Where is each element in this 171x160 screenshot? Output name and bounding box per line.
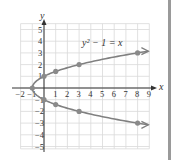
data-point: [135, 50, 140, 55]
x-tick-label: 3: [77, 89, 81, 99]
x-tick-label: 4: [88, 89, 93, 99]
data-point: [41, 74, 46, 79]
x-tick-label: 5: [100, 89, 104, 99]
x-tick-label: −2: [16, 89, 25, 99]
data-point: [135, 121, 140, 126]
x-tick-label: 6: [112, 89, 116, 99]
y-tick-label: −3: [35, 118, 44, 128]
x-tick-label: 8: [135, 89, 139, 99]
y-tick-label: −2: [35, 106, 44, 116]
x-tick-label: 7: [123, 89, 127, 99]
data-point: [30, 85, 35, 90]
parabola-chart: −2−112345678954321−1−2−3−4−5 y² − 1 = x …: [0, 0, 171, 160]
y-tick-label: −5: [35, 142, 44, 152]
y-tick-label: 3: [38, 48, 42, 58]
data-point: [77, 62, 82, 67]
equation-label: y² − 1 = x: [81, 37, 123, 48]
x-tick-label: 1: [53, 89, 57, 99]
y-tick-label: 2: [38, 60, 42, 70]
x-tick-label: 2: [65, 89, 69, 99]
data-point: [41, 97, 46, 102]
right-edge-border: [168, 0, 171, 160]
data-point: [77, 109, 82, 114]
y-axis-label: y: [39, 10, 45, 21]
data-point: [53, 69, 58, 74]
x-axis-label: x: [158, 81, 164, 92]
y-tick-label: −4: [35, 130, 45, 140]
y-tick-label: 5: [38, 25, 42, 35]
x-tick-label: 9: [147, 89, 151, 99]
data-point: [53, 102, 58, 107]
